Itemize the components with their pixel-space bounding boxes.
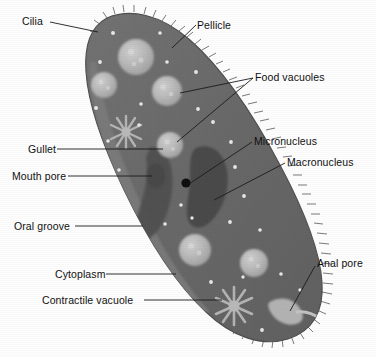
- micronucleus: [181, 178, 190, 187]
- diagram-canvas: Cilia Pellicle Food vacuoles Gullet Micr…: [0, 0, 376, 357]
- label-pellicle: Pellicle: [197, 20, 231, 31]
- label-oral-groove: Oral groove: [14, 221, 70, 232]
- food-vacuole: [91, 72, 117, 98]
- leader-cilia: [50, 22, 98, 32]
- label-cilia: Cilia: [22, 16, 43, 27]
- label-mouth-pore: Mouth pore: [12, 171, 66, 182]
- label-gullet: Gullet: [28, 144, 56, 155]
- food-vacuole: [240, 249, 268, 277]
- label-contractile-vacuole: Contractile vacuole: [42, 295, 133, 306]
- food-vacuole: [152, 76, 182, 106]
- label-macronucleus: Macronucleus: [287, 157, 354, 168]
- label-food-vacuoles: Food vacuoles: [255, 72, 325, 83]
- label-anal-pore: Anal pore: [317, 258, 363, 269]
- food-vacuole: [157, 132, 183, 158]
- label-cytoplasm: Cytoplasm: [55, 269, 106, 280]
- food-vacuole: [118, 39, 154, 75]
- food-vacuole: [179, 234, 211, 266]
- label-micronucleus: Micronucleus: [254, 136, 317, 147]
